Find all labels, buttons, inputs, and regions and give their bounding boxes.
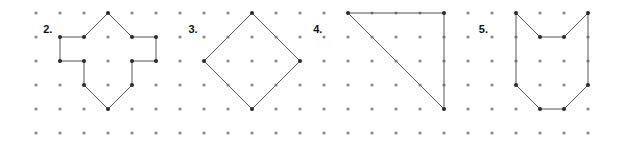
- vertex-dot: [202, 59, 206, 63]
- shape-5-notched-polygon: [514, 11, 590, 111]
- vertex-dot: [58, 59, 62, 63]
- vertex-dot: [58, 35, 62, 39]
- shape-3-diamond-outline: [204, 13, 300, 109]
- shape-4-right-triangle-outline: [348, 13, 444, 109]
- shape-2-hexagon-with-notches-outline: [60, 13, 156, 109]
- shape-3-diamond: [202, 11, 302, 111]
- vertex-dot: [250, 11, 254, 15]
- vertex-dot: [82, 35, 86, 39]
- vertex-dot: [130, 59, 134, 63]
- vertex-dot: [106, 107, 110, 111]
- vertex-dot: [586, 11, 590, 15]
- vertex-dot: [442, 107, 446, 111]
- vertex-dot: [538, 107, 542, 111]
- shape-4-right-triangle: [346, 11, 446, 111]
- vertex-dot: [82, 59, 86, 63]
- vertex-dot: [562, 35, 566, 39]
- shape-2-hexagon-with-notches: [58, 11, 158, 111]
- vertex-dot: [514, 83, 518, 87]
- vertex-dot: [586, 83, 590, 87]
- vertex-dot: [82, 83, 86, 87]
- geoboard-worksheet: 2.3.4.5.: [0, 0, 624, 147]
- vertex-dot: [106, 11, 110, 15]
- vertex-dot: [538, 35, 542, 39]
- vertex-dot: [130, 83, 134, 87]
- shape-layer: [0, 0, 624, 147]
- vertex-dot: [130, 35, 134, 39]
- vertex-dot: [514, 11, 518, 15]
- vertex-dot: [154, 59, 158, 63]
- vertex-dot: [250, 107, 254, 111]
- shape-5-notched-polygon-outline: [516, 13, 588, 109]
- vertex-dot: [298, 59, 302, 63]
- vertex-dot: [562, 107, 566, 111]
- vertex-dot: [154, 35, 158, 39]
- vertex-dot: [442, 11, 446, 15]
- vertex-dot: [346, 11, 350, 15]
